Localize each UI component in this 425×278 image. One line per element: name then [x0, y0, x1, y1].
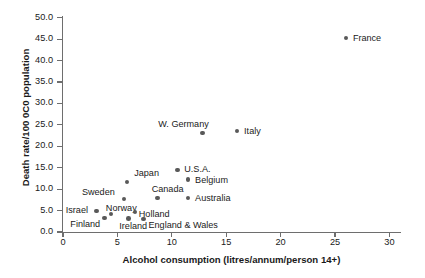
- y-tick-mark: [57, 167, 62, 168]
- y-tick-label: 20.0: [0, 141, 53, 150]
- y-tick-label: 5.0: [0, 206, 53, 215]
- y-tick-mark: [57, 103, 62, 104]
- data-point-label: U.S.A.: [184, 165, 210, 174]
- y-tick-mark: [57, 189, 62, 190]
- y-tick-label: 0.0: [0, 227, 53, 236]
- y-tick-label: 15.0: [0, 163, 53, 172]
- x-tick-label: 0: [43, 238, 83, 247]
- y-tick-label: 25.0: [0, 120, 53, 129]
- data-point-marker: [155, 196, 160, 201]
- data-point-label: Finland: [70, 220, 100, 229]
- y-tick-label: 30.0: [0, 98, 53, 107]
- x-axis-line: [62, 232, 401, 233]
- data-point-label: England & Wales: [149, 221, 218, 230]
- y-tick-mark: [57, 231, 62, 232]
- y-tick-mark: [57, 146, 62, 147]
- data-point-label: Belgium: [195, 176, 228, 185]
- data-point-marker: [186, 177, 191, 182]
- y-tick-mark: [57, 39, 62, 40]
- data-point-label: France: [353, 34, 381, 43]
- data-point-marker: [344, 36, 349, 41]
- y-tick-mark: [57, 124, 62, 125]
- y-tick-label: 45.0: [0, 34, 53, 43]
- x-tick-label: 15: [206, 238, 246, 247]
- data-point-label: Italy: [244, 127, 261, 136]
- data-point-label: W. Germany: [158, 120, 209, 129]
- y-tick-mark: [57, 81, 62, 82]
- y-tick-mark: [57, 17, 62, 18]
- x-axis-title: Alcohol consumption (litres/annum/person…: [62, 254, 401, 265]
- data-point-label: Ireland: [119, 222, 147, 231]
- data-point-marker: [122, 197, 127, 202]
- data-point-marker: [133, 210, 138, 215]
- data-point-label: Sweden: [82, 188, 115, 197]
- x-tick-label: 20: [261, 238, 301, 247]
- data-point-label: Canada: [152, 185, 184, 194]
- x-tick-label: 25: [315, 238, 355, 247]
- y-tick-label: 50.0: [0, 13, 53, 22]
- data-point-marker: [102, 216, 107, 221]
- y-tick-label: 40.0: [0, 56, 53, 65]
- scatter-chart: Death rate/100 0C0 population Alcohol co…: [0, 0, 425, 278]
- data-point-label: Australia: [195, 194, 230, 203]
- y-tick-label: 35.0: [0, 77, 53, 86]
- y-tick-mark: [57, 210, 62, 211]
- x-tick-label: 30: [369, 238, 409, 247]
- y-axis-line: [62, 16, 63, 233]
- y-tick-mark: [57, 60, 62, 61]
- data-point-marker: [235, 129, 240, 134]
- data-point-label: Japan: [134, 169, 159, 178]
- data-point-marker: [125, 180, 130, 185]
- x-tick-label: 10: [152, 238, 192, 247]
- data-point-marker: [94, 209, 99, 214]
- data-point-label: Israel: [66, 206, 88, 215]
- y-tick-label: 10.0: [0, 184, 53, 193]
- data-point-marker: [186, 196, 191, 201]
- data-point-marker: [200, 131, 205, 136]
- x-tick-label: 5: [97, 238, 137, 247]
- data-point-marker: [175, 168, 180, 173]
